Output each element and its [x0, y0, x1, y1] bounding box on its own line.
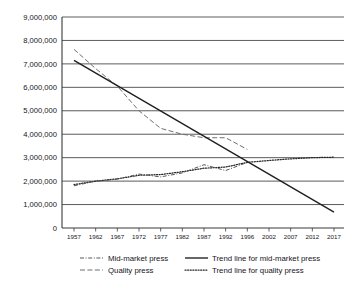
y-axis-tick-label: 3,000,000	[23, 153, 57, 162]
y-axis-tick-label: 0	[53, 224, 57, 233]
x-axis-tick-label: 2002	[262, 233, 276, 240]
x-axis-tick-label: 2007	[284, 233, 298, 240]
legend-label-trend-line-for-quality-press: Trend line for quality press	[212, 266, 304, 275]
y-axis-tick-label: 6,000,000	[23, 83, 57, 92]
x-axis-tick-label: 1992	[219, 233, 233, 240]
legend-label-quality-press: Quality press	[108, 266, 154, 275]
x-axis-tick-label: 1996	[240, 233, 254, 240]
x-axis-tick-label: 2017	[327, 233, 341, 240]
legend-label-mid-market-press: Mid-market press	[108, 254, 168, 263]
x-axis-tick-label: 1987	[197, 233, 211, 240]
legend-label-trend-line-for-mid-market-press: Trend line for mid-market press	[212, 254, 320, 263]
y-axis-tick-label: 5,000,000	[23, 106, 57, 115]
y-axis-tick-label: 9,000,000	[23, 13, 57, 22]
x-axis-tick-label: 1972	[132, 233, 146, 240]
x-axis-tick-label: 1967	[110, 233, 124, 240]
x-axis-tick-label: 1957	[67, 233, 81, 240]
x-axis-tick-label: 2012	[305, 233, 319, 240]
y-axis-tick-label: 4,000,000	[23, 130, 57, 139]
y-axis-tick-label: 2,000,000	[23, 177, 57, 186]
y-axis-tick-label: 1,000,000	[23, 200, 57, 209]
chart-container: 01,000,0002,000,0003,000,0004,000,0005,0…	[0, 0, 358, 288]
y-axis-tick-label: 7,000,000	[23, 60, 57, 69]
x-axis-tick-label: 1962	[89, 233, 103, 240]
line-chart: 01,000,0002,000,0003,000,0004,000,0005,0…	[0, 0, 358, 288]
y-axis-tick-label: 8,000,000	[23, 36, 57, 45]
x-axis-tick-label: 1977	[154, 233, 168, 240]
x-axis-tick-label: 1982	[175, 233, 189, 240]
